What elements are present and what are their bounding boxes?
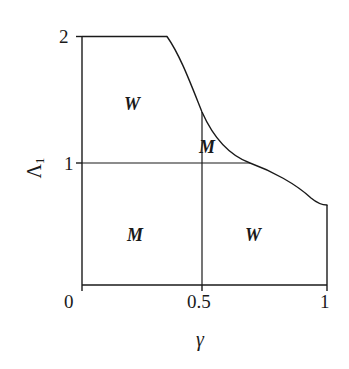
y-axis-title-subscript: 1	[33, 158, 47, 164]
x-axis-title: γ	[196, 329, 204, 349]
y-axis-title-base: Λ	[23, 164, 45, 179]
phase-diagram-figure: 2 1 0 0.5 1 W M M W γ Λ1	[0, 0, 349, 369]
xtick-label-one: 1	[320, 292, 330, 311]
xtick-label-0: 0	[64, 292, 74, 311]
y-axis-title-wrapper: Λ1	[14, 140, 54, 200]
ytick-label-1: 1	[64, 154, 74, 173]
region-label-w-top: W	[124, 95, 140, 113]
region-label-m-lower: M	[127, 226, 143, 244]
ytick-label-2: 2	[59, 27, 69, 46]
phase-boundary-curve	[167, 37, 327, 206]
region-label-m-middle: M	[199, 138, 215, 156]
region-label-w-right: W	[245, 226, 261, 244]
xtick-label-half: 0.5	[187, 292, 211, 311]
y-axis-title: Λ1	[24, 136, 44, 200]
